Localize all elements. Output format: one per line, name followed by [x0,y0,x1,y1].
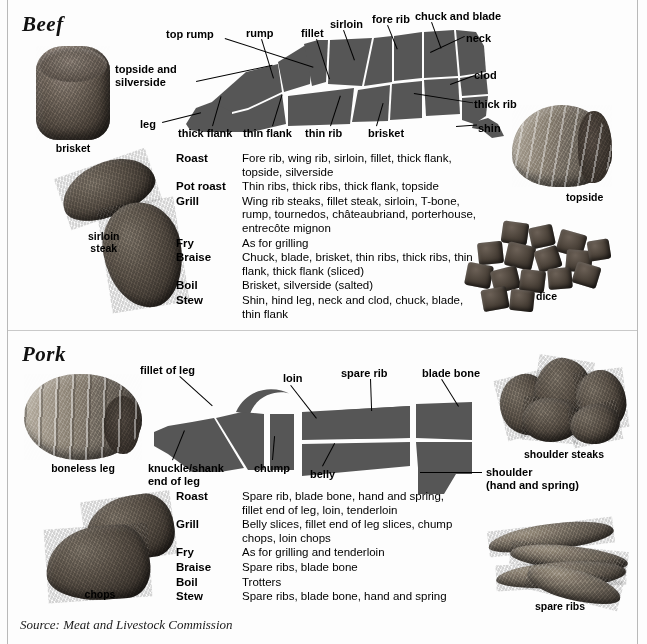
method-name: Fry [176,546,242,561]
method-row: RoastFore rib, wing rib, sirloin, fillet… [176,152,476,180]
topside-image [512,105,612,187]
label-knuckle-shank-end-of-leg: knuckle/shank end of leg [148,462,244,487]
beef-carcass-diagram [186,28,506,140]
label-fillet-of-leg: fillet of leg [140,364,195,377]
leader-shoulder [420,472,482,473]
method-name: Braise [176,251,242,279]
method-cuts: Wing rib steaks, fillet steak, sirloin, … [242,195,476,237]
label-shoulder-hand-and-spring: shoulder (hand and spring) [486,466,606,492]
method-cuts: Thin ribs, thick ribs, thick flank, tops… [242,180,476,195]
label-loin: loin [283,372,303,385]
method-name: Grill [176,195,242,237]
source-note: Source: Meat and Livestock Commission [20,617,233,633]
pork-section-title: Pork [22,342,66,367]
method-row: BoilTrotters [176,576,466,591]
method-row: Pot roastThin ribs, thick ribs, thick fl… [176,180,476,195]
cut-blade-bone [416,402,472,440]
label-topside-silverside: topside and silverside [115,63,199,88]
method-name: Boil [176,576,242,591]
photo-chops: chops [38,496,178,606]
pork-methods-table: RoastSpare rib, blade bone, hand and spr… [176,490,466,605]
photo-boneless-leg: boneless leg [24,374,142,476]
beef-section: Beef brisket sirloin steak topside [0,0,647,330]
method-row: GrillWing rib steaks, fillet steak, sirl… [176,195,476,237]
chart-page: Beef brisket sirloin steak topside [0,0,647,644]
label-belly: belly [310,468,335,481]
brisket-image [36,46,110,140]
cut-fillet [328,38,372,86]
label-thin-flank: thin flank [243,127,292,140]
method-cuts: Spare rib, blade bone, hand and spring, … [242,490,466,518]
pork-methods-body: RoastSpare rib, blade bone, hand and spr… [176,490,466,605]
method-name: Stew [176,590,242,605]
photo-shoulder-steaks: shoulder steaks [500,352,628,468]
label-spare-rib: spare rib [341,367,387,380]
cut-chuck-blade [424,30,458,78]
method-row: BraiseSpare ribs, blade bone [176,561,466,576]
cut-thin-rib [390,81,422,120]
method-row: StewSpare ribs, blade bone, hand and spr… [176,590,466,605]
method-cuts: As for grilling [242,237,476,252]
method-row: BoilBrisket, silverside (salted) [176,279,476,294]
method-cuts: Spare ribs, blade bone, hand and spring [242,590,466,605]
beef-cooking-methods: RoastFore rib, wing rib, sirloin, fillet… [176,152,476,322]
cut-spare-rib [342,406,410,439]
method-name: Boil [176,279,242,294]
photo-caption-topside: topside [566,191,603,203]
cut-brisket [352,85,390,122]
method-cuts: Trotters [242,576,466,591]
beef-section-title: Beef [22,12,64,37]
photo-caption-shoulder-steaks: shoulder steaks [524,448,604,460]
label-chump: chump [254,462,290,475]
label-neck: neck [466,32,491,45]
photo-topside: topside [512,105,612,211]
photo-dice: dice [462,222,612,318]
label-blade-bone: blade bone [422,367,480,380]
method-row: FryAs for grilling [176,237,476,252]
label-leg: leg [140,118,156,131]
photo-caption-boneless-leg: boneless leg [51,462,115,474]
cut-thin-flank [288,88,354,126]
photo-brisket: brisket [36,46,110,156]
photo-caption-chops: chops [85,588,116,600]
method-cuts: Chuck, blade, brisket, thin ribs, thick … [242,251,476,279]
method-cuts: As for grilling and tenderloin [242,546,466,561]
photo-caption-sirloin-steak: sirloin steak [88,230,120,254]
photo-caption-brisket: brisket [56,142,90,154]
method-row: FryAs for grilling and tenderloin [176,546,466,561]
beef-methods-table: RoastFore rib, wing rib, sirloin, fillet… [176,152,476,322]
pork-section: Pork boneless leg chops shoulder steaks [0,330,647,644]
method-row: RoastSpare rib, blade bone, hand and spr… [176,490,466,518]
label-brisket: brisket [368,127,404,140]
method-name: Braise [176,561,242,576]
method-cuts: Belly slices, fillet end of leg slices, … [242,518,466,546]
method-name: Roast [176,490,242,518]
label-fore-rib: fore rib [372,13,410,26]
label-thin-rib: thin rib [305,127,342,140]
photo-sirloin-steak: sirloin steak [54,162,190,312]
method-row: BraiseChuck, blade, brisket, thin ribs, … [176,251,476,279]
label-rump: rump [246,27,274,40]
boneless-leg-image [24,374,142,460]
method-cuts: Spare ribs, blade bone [242,561,466,576]
label-fillet: fillet [301,27,324,40]
photo-spare-ribs: spare ribs [482,510,632,626]
label-thick-rib: thick rib [474,98,517,111]
method-name: Fry [176,237,242,252]
pork-cooking-methods: RoastSpare rib, blade bone, hand and spr… [176,490,466,605]
photo-caption-dice: dice [536,290,557,302]
cut-shoulder-hand-and-spring [416,442,472,494]
label-chuck-and-blade: chuck and blade [415,10,501,23]
method-cuts: Fore rib, wing rib, sirloin, fillet, thi… [242,152,476,180]
cut-fore-rib [394,32,422,81]
method-row: StewShin, hind leg, neck and clod, chuck… [176,294,476,322]
label-clod: clod [474,69,497,82]
method-name: Pot roast [176,180,242,195]
method-name: Stew [176,294,242,322]
method-cuts: Brisket, silverside (salted) [242,279,476,294]
photo-caption-spare-ribs: spare ribs [535,600,585,612]
label-thick-flank: thick flank [178,127,232,140]
method-name: Roast [176,152,242,180]
label-top-rump: top rump [166,28,214,41]
method-cuts: Shin, hind leg, neck and clod, chuck, bl… [242,294,476,322]
